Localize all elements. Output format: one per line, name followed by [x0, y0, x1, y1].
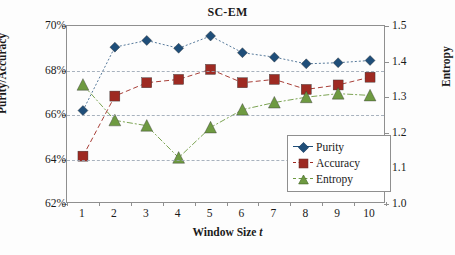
data-point-purity-9 — [333, 58, 343, 68]
legend-label-entropy: Entropy — [313, 173, 353, 185]
data-point-purity-6 — [237, 48, 247, 58]
x-axis-tick — [195, 202, 196, 206]
y-axis-left-tick-label: 62% — [45, 197, 66, 209]
data-point-entropy-5 — [205, 121, 217, 133]
y-axis-left-tick-label: 68% — [45, 64, 66, 76]
diamond-marker-icon — [293, 140, 313, 154]
data-point-accuracy-10 — [365, 72, 375, 82]
x-axis-tick — [386, 202, 387, 206]
square-marker-icon — [293, 156, 313, 170]
x-axis-tick — [354, 202, 355, 206]
x-axis-tick-label: 1 — [69, 207, 95, 219]
data-point-entropy-4 — [173, 152, 185, 164]
y-axis-right-tick-label: 1.0 — [392, 197, 406, 209]
x-axis-tick — [163, 202, 164, 206]
y-axis-right-tick — [384, 26, 389, 27]
x-axis-tick — [67, 202, 68, 206]
y-axis-left-tick-label: 70% — [45, 19, 66, 31]
data-point-accuracy-4 — [174, 74, 184, 84]
x-axis-title: Window Size t — [0, 226, 455, 238]
y-axis-left-title: Purity/Accuracy — [0, 33, 8, 114]
gridline — [67, 71, 384, 72]
data-point-accuracy-7 — [269, 74, 279, 84]
data-point-purity-7 — [269, 52, 279, 62]
y-axis-left-tick-label: 66% — [45, 108, 66, 120]
x-axis-title-text: Window Size — [192, 226, 259, 238]
y-axis-right-tick — [384, 133, 389, 134]
data-point-purity-3 — [142, 35, 152, 45]
x-axis-tick-label: 6 — [228, 207, 254, 219]
x-axis-tick-label: 3 — [133, 207, 159, 219]
data-point-accuracy-2 — [110, 91, 120, 101]
legend-label-accuracy: Accuracy — [313, 157, 360, 169]
x-axis-tick-label: 5 — [197, 207, 223, 219]
y-axis-right-tick-label: 1.2 — [392, 126, 406, 138]
data-point-accuracy-3 — [142, 78, 152, 88]
y-axis-right-title: Entropy — [440, 46, 452, 87]
data-point-entropy-10 — [364, 89, 376, 101]
x-axis-tick — [322, 202, 323, 206]
y-axis-right-tick-label: 1.1 — [392, 161, 406, 173]
y-axis-right-tick — [384, 97, 389, 98]
chart-figure: SC-EM Purity/Accuracy Entropy Window Siz… — [0, 0, 455, 255]
series-line-purity — [83, 36, 370, 111]
x-axis-tick-label: 9 — [324, 207, 350, 219]
legend-item-entropy: Entropy — [293, 171, 385, 187]
y-axis-left-tick-label: 64% — [45, 153, 66, 165]
x-axis-title-var: t — [259, 226, 262, 238]
x-axis-tick — [131, 202, 132, 206]
legend-label-purity: Purity — [313, 141, 344, 153]
data-point-accuracy-5 — [206, 64, 216, 74]
data-point-entropy-6 — [237, 104, 249, 116]
y-axis-right-tick-label: 1.4 — [392, 55, 406, 67]
x-axis-tick-label: 8 — [292, 207, 318, 219]
gridline — [67, 115, 384, 116]
chart-legend: Purity Accuracy Entropy — [287, 135, 391, 192]
data-point-entropy-1 — [77, 79, 89, 91]
x-axis-tick — [99, 202, 100, 206]
x-axis-tick-label: 7 — [260, 207, 286, 219]
data-point-purity-8 — [301, 59, 311, 69]
y-axis-right-tick-label: 1.3 — [392, 90, 406, 102]
legend-item-purity: Purity — [293, 139, 385, 155]
data-point-purity-4 — [174, 43, 184, 53]
chart-title: SC-EM — [0, 5, 455, 20]
x-axis-tick — [290, 202, 291, 206]
x-axis-tick-label: 4 — [165, 207, 191, 219]
x-axis-tick — [258, 202, 259, 206]
x-axis-tick-label: 2 — [101, 207, 127, 219]
data-point-purity-10 — [365, 55, 375, 65]
data-point-purity-5 — [206, 31, 216, 41]
y-axis-right-tick-label: 1.5 — [392, 19, 406, 31]
legend-item-accuracy: Accuracy — [293, 155, 385, 171]
data-point-accuracy-6 — [237, 78, 247, 88]
x-axis-tick — [227, 202, 228, 206]
triangle-marker-icon — [293, 172, 313, 186]
y-axis-right-tick — [384, 62, 389, 63]
x-axis-tick-label: 10 — [356, 207, 382, 219]
data-point-purity-2 — [110, 42, 120, 52]
